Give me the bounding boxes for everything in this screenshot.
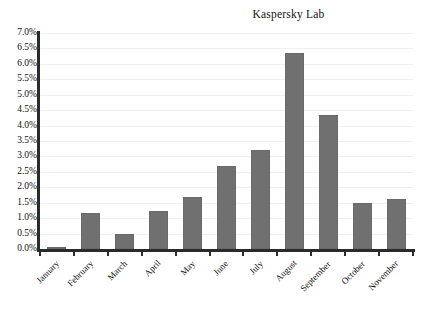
x-axis-tick (141, 249, 143, 256)
bar (319, 115, 338, 249)
y-axis-tick-label: 5.5% (1, 74, 37, 84)
bar (251, 150, 270, 249)
x-axis-tick (39, 249, 41, 256)
x-axis-tick (107, 249, 109, 256)
bars-layer (40, 33, 413, 249)
x-axis-tick-label: July (248, 259, 265, 276)
x-axis-tick-label: May (179, 259, 197, 277)
bar (387, 199, 406, 249)
x-axis-tick (344, 249, 346, 256)
x-axis-tick (73, 249, 75, 256)
x-axis-tick-label: August (274, 259, 299, 284)
x-axis-tick-label: April (143, 259, 163, 279)
y-axis-tick-label: 6.5% (1, 43, 37, 53)
x-axis-tick-label: June (212, 259, 230, 277)
x-axis-tick (209, 249, 211, 256)
y-axis-tick-label: 7.0% (1, 28, 37, 38)
bar (149, 211, 168, 249)
y-axis-tick-label: 4.5% (1, 105, 37, 115)
x-axis-tick-label: October (340, 259, 367, 286)
x-axis-tick (378, 249, 380, 256)
y-axis-tick-label: 1.5% (1, 198, 37, 208)
y-axis-tick-label: 2.5% (1, 167, 37, 177)
x-axis-tick-label: September (299, 259, 333, 293)
x-axis-tick (412, 249, 414, 256)
y-axis-tick-label: 4.0% (1, 121, 37, 131)
bar (353, 203, 372, 249)
x-axis-tick (310, 249, 312, 256)
y-axis-tick-label: 1.0% (1, 213, 37, 223)
bar (285, 53, 304, 249)
bar (183, 197, 202, 249)
y-axis-tick-label: 5.0% (1, 90, 37, 100)
x-axis-line (37, 249, 415, 252)
y-axis-tick-label: 6.0% (1, 59, 37, 69)
y-axis-tick-label: 3.0% (1, 151, 37, 161)
chart-title: Kaspersky Lab (0, 8, 425, 20)
bar-chart: Kaspersky Lab 7.0%6.5%6.0%5.5%5.0%4.5%4.… (0, 0, 425, 312)
y-axis-tick-label: 0.5% (1, 229, 37, 239)
chart-title-text: Kaspersky Lab (253, 8, 325, 20)
y-axis-tick-label: 2.0% (1, 182, 37, 192)
x-axis-tick-label: February (66, 259, 95, 288)
bar (115, 234, 134, 249)
x-axis-tick (242, 249, 244, 256)
x-axis-tick-label: January (35, 259, 61, 285)
bar (217, 166, 236, 249)
x-axis-tick-label: March (106, 259, 129, 282)
y-axis-tick-label: 3.5% (1, 136, 37, 146)
bar (81, 213, 100, 249)
x-axis-tick (276, 249, 278, 256)
y-axis-tick-label: 0.0% (1, 244, 37, 254)
x-axis-tick-label: November (367, 259, 400, 292)
bar (47, 247, 66, 249)
y-axis-labels: 7.0%6.5%6.0%5.5%5.0%4.5%4.0%3.5%3.0%2.5%… (0, 0, 37, 312)
x-axis-tick (175, 249, 177, 256)
